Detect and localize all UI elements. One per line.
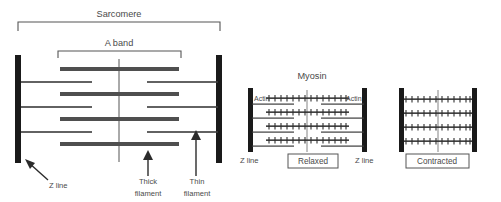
thick-filament bbox=[60, 117, 179, 121]
sarcomere-label: Sarcomere bbox=[97, 9, 142, 19]
z-line-left bbox=[15, 55, 21, 163]
relaxed-actin-filament bbox=[252, 118, 294, 119]
thin-filament bbox=[147, 81, 218, 83]
sarcomere-figure: Sarcomere A band bbox=[0, 0, 501, 202]
relaxed-actin-filament bbox=[321, 118, 364, 119]
myosin-label: Myosin bbox=[297, 71, 326, 81]
relaxed-z-line-label-left: Z line bbox=[240, 156, 259, 165]
thick-filament bbox=[60, 142, 179, 146]
relaxed-actin-filament bbox=[252, 146, 294, 147]
thick-filament bbox=[60, 92, 179, 96]
thin-filament-callout-label-line2: filament bbox=[184, 189, 211, 198]
contracted-state-label: Contracted bbox=[417, 157, 457, 166]
actin-label-right: Actin bbox=[346, 95, 362, 102]
contracted-state-badge: Contracted bbox=[406, 154, 469, 168]
thin-filament bbox=[147, 131, 218, 133]
thin-filament bbox=[21, 131, 92, 133]
relaxed-actin-filament bbox=[321, 146, 364, 147]
z-line-callout-label: Z line bbox=[49, 181, 68, 190]
relaxed-myosin-shaft bbox=[266, 111, 349, 113]
a-band-label: A band bbox=[105, 38, 134, 48]
z-line-right bbox=[216, 55, 222, 163]
contracted-z-line-left bbox=[399, 88, 404, 152]
relaxed-myosin-shaft bbox=[266, 97, 349, 99]
relaxed-myosin-shaft bbox=[266, 139, 349, 141]
contracted-myosin-shaft bbox=[404, 126, 472, 128]
figure-canvas: Sarcomere A band bbox=[0, 0, 501, 202]
thin-filament bbox=[21, 81, 92, 83]
thick-filament-callout-label-line1: Thick bbox=[139, 177, 157, 186]
relaxed-actin-filament bbox=[321, 132, 364, 133]
contracted-myosin-shaft bbox=[404, 112, 472, 114]
relaxed-actin-filament bbox=[252, 104, 294, 105]
thin-filament-callout-label-line1: Thin bbox=[190, 177, 205, 186]
relaxed-z-line-right bbox=[362, 88, 367, 152]
relaxed-state-badge: Relaxed bbox=[288, 154, 338, 168]
contracted-z-line-right bbox=[472, 88, 477, 152]
actin-label-left: Actin bbox=[254, 95, 270, 102]
relaxed-actin-filament bbox=[321, 104, 364, 105]
thick-filament bbox=[60, 67, 179, 71]
relaxed-z-line-label-right: Z line bbox=[355, 156, 374, 165]
contracted-myosin-shaft bbox=[404, 140, 472, 142]
contracted-myosin-shaft bbox=[404, 98, 472, 100]
thick-filament-callout-label-line2: filament bbox=[135, 189, 162, 198]
thin-filament bbox=[147, 106, 218, 108]
relaxed-state-label: Relaxed bbox=[298, 157, 328, 166]
relaxed-myosin-shaft bbox=[266, 125, 349, 127]
thin-filament bbox=[21, 106, 92, 108]
relaxed-z-line-left bbox=[248, 88, 253, 152]
relaxed-actin-filament bbox=[252, 132, 294, 133]
